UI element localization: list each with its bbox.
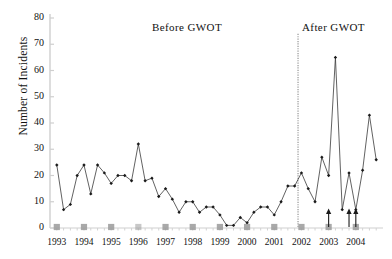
series-line (57, 57, 376, 225)
y-tick-label-50: 50 (14, 90, 44, 101)
y-tick-label-70: 70 (14, 37, 44, 48)
x-axis (50, 228, 383, 231)
chart-figure: Number of Incidents Before GWOT After GW… (0, 0, 392, 259)
y-tick-label-60: 60 (14, 64, 44, 75)
x-tick-label-2004: 2004 (340, 237, 372, 247)
y-tick-label-30: 30 (14, 142, 44, 153)
y-axis (50, 14, 54, 228)
y-tick-label-10: 10 (14, 195, 44, 206)
y-tick-label-40: 40 (14, 116, 44, 127)
series-markers (55, 56, 378, 227)
y-tick-label-20: 20 (14, 169, 44, 180)
plot-area (0, 0, 392, 259)
y-tick-label-0: 0 (14, 221, 44, 232)
y-tick-label-80: 80 (14, 11, 44, 22)
